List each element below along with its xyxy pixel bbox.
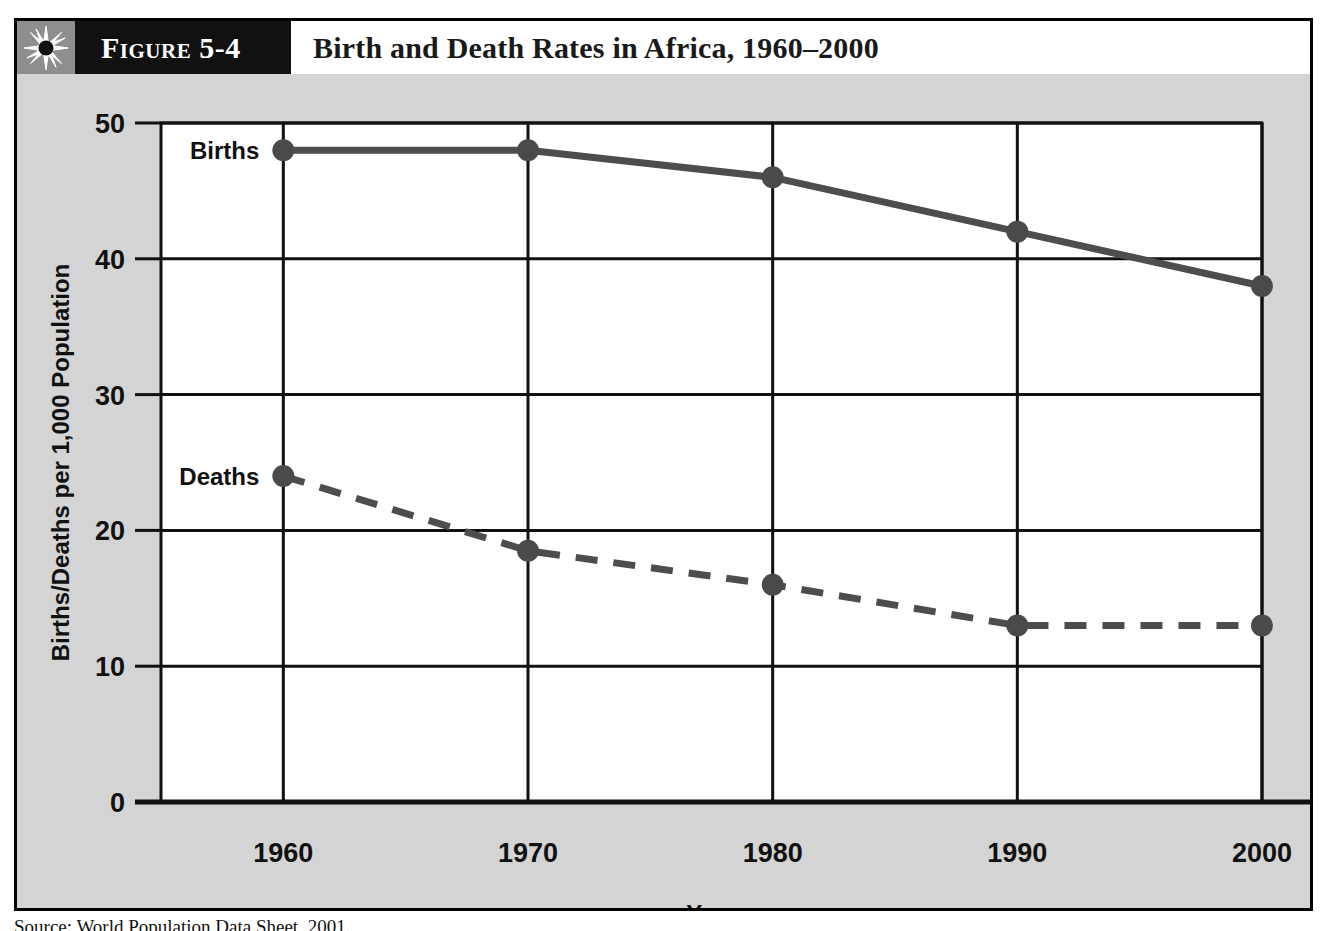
x-tick-label: 2000 [1232, 838, 1292, 868]
y-tick-label: 10 [95, 652, 125, 682]
line-chart: 0102030405019601970198019902000 BirthsDe… [17, 74, 1310, 908]
data-point-births [762, 166, 784, 188]
sunburst-icon [17, 21, 75, 74]
data-point-deaths [1251, 614, 1273, 636]
y-tick-label: 20 [95, 516, 125, 546]
figure-number-label: Figure 5-4 [75, 21, 288, 74]
plot-area-background [161, 123, 1262, 802]
x-tick-label: 1970 [498, 838, 558, 868]
figure-source-caption: Source: World Population Data Sheet, 200… [14, 916, 914, 931]
y-axis-title: Births/Deaths per 1,000 Population [47, 264, 74, 661]
series-label-deaths: Deaths [179, 463, 259, 490]
data-point-births [517, 139, 539, 161]
x-tick-label: 1980 [743, 838, 803, 868]
data-point-births [272, 139, 294, 161]
data-point-births [1251, 275, 1273, 297]
x-axis-title: Year [686, 900, 737, 908]
figure-title: Birth and Death Rates in Africa, 1960–20… [313, 31, 879, 65]
y-tick-label: 30 [95, 381, 125, 411]
figure-container: Figure 5-4 Birth and Death Rates in Afri… [14, 18, 1313, 911]
y-tick-label: 0 [110, 788, 125, 818]
data-point-deaths [517, 540, 539, 562]
x-tick-label: 1960 [253, 838, 313, 868]
data-point-births [1006, 221, 1028, 243]
x-tick-label: 1990 [987, 838, 1047, 868]
y-tick-label: 50 [95, 109, 125, 139]
y-tick-label: 40 [95, 245, 125, 275]
figure-title-band: Birth and Death Rates in Africa, 1960–20… [288, 21, 1310, 74]
data-point-deaths [762, 574, 784, 596]
data-point-deaths [1006, 614, 1028, 636]
chart-body: 0102030405019601970198019902000 BirthsDe… [17, 74, 1310, 908]
figure-header: Figure 5-4 Birth and Death Rates in Afri… [17, 21, 1310, 74]
data-point-deaths [272, 465, 294, 487]
series-label-births: Births [190, 137, 259, 164]
